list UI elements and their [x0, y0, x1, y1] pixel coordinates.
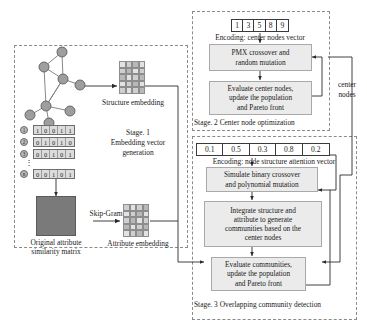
stage2-encoding-label: Encoding: center nodes vector	[195, 33, 325, 42]
stage3-box-evaluate-communities: Evaluate communities, update the populat…	[211, 257, 306, 291]
stage2-caption: Stage. 2 Center node optimization	[194, 118, 295, 127]
stage3-box1-line1: Simulate binary crossover	[224, 170, 300, 179]
bit-cell: 1	[58, 126, 66, 134]
bit-cell: 0	[50, 138, 58, 146]
attribute-row-bits-3: 0 0 1 0 1	[33, 149, 75, 159]
stage3-caption: Stage. 3 Overlapping community detection	[194, 300, 321, 309]
stage3-box2-line4: center nodes	[225, 233, 301, 242]
stage3-box3-line1: Evaluate communities,	[225, 260, 292, 269]
stage3-box2-line2: attribute to generate	[225, 215, 301, 224]
attribute-row-bits-2: 0 1 0 1 0	[33, 137, 75, 147]
stage3-box2-line3: communities based on the	[225, 224, 301, 233]
stage2-box2-line2: update the population	[228, 93, 294, 102]
stage2-box2-line1: Evaluate center nodes,	[228, 84, 294, 93]
stage1-caption-line3: generation	[104, 148, 172, 157]
stage2-box2-line3: and Pareto front	[228, 103, 294, 112]
attribute-embedding-label: Attribute embedding	[100, 239, 176, 248]
stage2-box-evaluate-center-nodes: Evaluate center nodes, update the popula…	[209, 81, 312, 115]
attribute-row-id-3: 3	[20, 150, 28, 158]
bit-cell: 1	[66, 150, 74, 158]
bit-cell: 0	[42, 170, 50, 178]
stage2-box1-line2: random mutation	[232, 58, 290, 67]
encoding-cell: 0.1	[197, 144, 223, 155]
attribute-row-id-2: 2	[20, 138, 28, 146]
encoding-cell: 1	[232, 20, 243, 31]
encoding-cell: 9	[277, 20, 288, 31]
encoding-cell: 0.3	[250, 144, 276, 155]
attribute-row-id-n: n	[20, 170, 28, 178]
stage3-box3-line3: and Pareto front	[225, 279, 292, 288]
bit-cell: 1	[66, 170, 74, 178]
encoding-cell: 3	[243, 20, 254, 31]
bit-cell: 1	[66, 126, 74, 134]
similarity-matrix-label-line1: Original attribute	[16, 238, 96, 247]
center-nodes-label-line1: center	[329, 80, 365, 89]
bit-cell: 1	[50, 150, 58, 158]
encoding-cell: 0.5	[223, 144, 249, 155]
encoding-cell: 0.2	[303, 144, 329, 155]
stage2-box1-line1: PMX crossover and	[232, 48, 290, 57]
bit-cell: 0	[42, 150, 50, 158]
diagram-root: Structure embedding 1 1 0 0 1 1 2 0 1 0 …	[0, 0, 367, 327]
stage3-encoding-vector: 0.1 0.5 0.3 0.8 0.2	[196, 143, 330, 156]
stage1-caption-line1: Stage. 1	[104, 128, 172, 137]
stage2-encoding-vector: 1 3 5 8 9	[231, 19, 289, 32]
bit-cell: 0	[50, 126, 58, 134]
encoding-cell: 8	[266, 20, 277, 31]
bit-cell: 0	[66, 138, 74, 146]
bit-cell: 0	[34, 150, 42, 158]
bit-cell: 0	[34, 170, 42, 178]
bit-cell: 0	[58, 150, 66, 158]
bit-cell: 0	[58, 170, 66, 178]
stage2-box-pmx-crossover: PMX crossover and random mutation	[209, 44, 312, 71]
structure-embedding-grid	[119, 61, 145, 94]
attribute-row-id-1: 1	[20, 126, 28, 134]
stage3-box3-line2: update the population	[225, 269, 292, 278]
bit-cell: 1	[34, 126, 42, 134]
structure-embedding-label: Structure embedding	[96, 98, 170, 107]
similarity-matrix	[36, 196, 76, 236]
stage3-box-simulate-binary-crossover: Simulate binary crossover and polynomial…	[206, 167, 318, 192]
stage3-box1-line2: and polynomial mutation	[224, 180, 300, 189]
encoding-cell: 5	[254, 20, 265, 31]
bit-cell: 1	[42, 138, 50, 146]
similarity-matrix-label-line2: similarity matrix	[16, 247, 96, 256]
attribute-rows-ellipsis: ⋮	[25, 160, 33, 165]
encoding-cell: 0.8	[276, 144, 302, 155]
bit-cell: 0	[34, 138, 42, 146]
stage3-encoding-label: Encoding: node structure attention vecto…	[194, 157, 354, 166]
bit-cell: 1	[50, 170, 58, 178]
attribute-row-bits-n: 0 0 1 0 1	[33, 169, 75, 179]
bit-cell: 1	[58, 138, 66, 146]
stage3-box-integrate-structure-attribute: Integrate structure and attribute to gen…	[204, 201, 322, 247]
attribute-embedding-grid	[123, 204, 149, 237]
bit-cell: 0	[42, 126, 50, 134]
stage1-caption-line2: Embedding vector	[99, 138, 177, 147]
stage3-box2-line1: Integrate structure and	[225, 206, 301, 215]
center-nodes-label-line2: nodes	[329, 90, 365, 99]
attribute-row-bits-1: 1 0 0 1 1	[33, 125, 75, 135]
